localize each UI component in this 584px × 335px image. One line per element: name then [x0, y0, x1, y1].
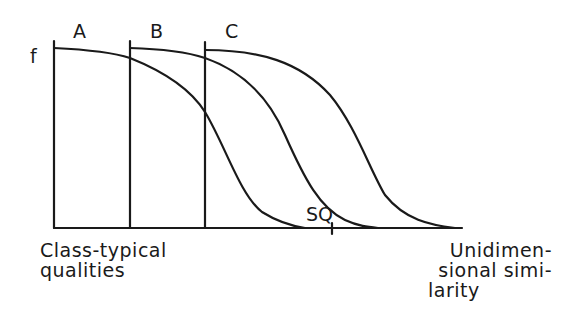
x-axis-right-label-line-1: Unidimen-: [398, 240, 558, 260]
x-axis-left-label: Class-typical qualities: [40, 240, 167, 280]
curve-c: [205, 50, 455, 228]
x-axis-right-label-line-3: larity: [398, 280, 558, 300]
x-axis-left-label-line-1: Class-typical: [40, 240, 167, 260]
curve-a: [54, 48, 305, 228]
curve-label-b: B: [150, 22, 163, 41]
x-axis-right-label: Unidimen- sional simi- larity: [398, 240, 558, 300]
sq-marker-label: SQ: [306, 205, 333, 224]
y-axis-label-f: f: [30, 47, 37, 66]
x-axis-right-label-line-2: sional simi-: [398, 260, 558, 280]
curve-label-c: C: [225, 22, 238, 41]
curve-b: [130, 48, 378, 228]
x-axis-left-label-line-2: qualities: [40, 260, 167, 280]
curve-label-a: A: [73, 22, 86, 41]
